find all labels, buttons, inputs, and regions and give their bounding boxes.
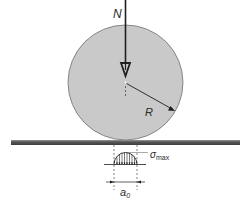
- sigma-max-label: σmax: [150, 149, 170, 161]
- contact-width-dimension: [106, 181, 145, 184]
- ground-plane: [11, 140, 240, 145]
- radius-label: R: [145, 106, 153, 118]
- contact-guides: [114, 145, 137, 190]
- contact-width-label: a0: [120, 186, 130, 199]
- pressure-distribution: [104, 153, 148, 165]
- load-label: N: [113, 7, 122, 21]
- contact-diagram: N R: [0, 0, 250, 205]
